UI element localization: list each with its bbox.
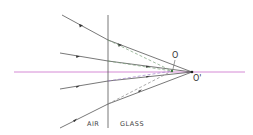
label-o: O	[172, 51, 178, 60]
refraction-diagram: O O' AIR GLASS	[0, 0, 253, 135]
label-glass: GLASS	[120, 120, 144, 128]
label-o-prime: O'	[193, 74, 202, 83]
incident-ray-3	[60, 81, 108, 89]
ray-arrows	[73, 24, 83, 122]
incident-ray-4	[60, 104, 108, 128]
incident-ray-1	[62, 15, 108, 40]
label-air: AIR	[87, 120, 99, 128]
point-o	[171, 70, 173, 72]
incident-ray-2	[60, 53, 108, 61]
point-o-prime	[191, 71, 194, 74]
